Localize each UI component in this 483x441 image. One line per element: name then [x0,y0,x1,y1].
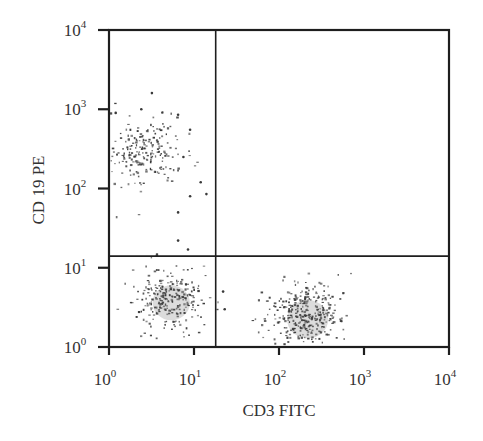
event-dot [162,111,164,113]
event-dot [153,137,155,139]
event-dot [158,293,159,294]
event-dot [187,248,190,251]
event-dot [120,133,122,134]
event-dot [187,294,189,296]
event-dot [157,151,159,153]
event-dot [300,330,302,331]
event-dot [285,300,287,302]
event-dot [173,309,175,311]
event-dot [311,339,313,341]
event-dot [177,168,180,170]
event-dot [130,302,132,303]
event-dot [143,139,145,141]
event-dot [197,290,200,292]
event-dot [310,299,312,301]
event-dot [258,299,260,301]
event-dot [140,184,142,185]
event-dot [185,288,187,290]
event-dot [162,303,164,305]
event-dot [177,281,179,282]
event-dot [305,291,307,293]
event-dot [300,301,301,302]
event-dot [114,103,116,104]
event-dot [316,318,317,320]
event-dot [167,142,169,143]
event-dot [166,133,167,135]
event-dot [169,168,171,169]
event-dot [115,141,117,142]
event-dot [158,173,160,175]
event-dot [185,319,187,321]
event-dot [179,298,182,299]
event-dot [160,155,161,157]
event-dot [139,182,141,184]
event-dot [154,294,156,295]
event-dot [340,320,343,322]
event-dot [150,168,151,170]
event-dot [183,269,185,270]
event-dot [161,296,162,297]
event-dot [165,304,166,306]
event-dot [140,164,142,166]
event-dot [164,174,166,175]
event-dot [157,171,158,173]
event-dot [316,328,317,330]
event-dot [314,286,315,288]
event-dot [291,311,292,313]
event-dot [188,335,190,336]
event-dot [322,295,325,296]
event-dot [176,285,178,286]
event-dot [289,298,291,300]
event-dot [116,216,118,218]
event-dot [131,159,133,161]
event-dot [130,164,132,165]
event-dot [318,311,320,312]
event-dot [125,141,126,143]
event-dot [148,281,150,283]
event-dot [136,139,137,141]
event-dot [181,279,183,281]
event-dot [142,147,144,149]
event-dot [138,214,141,215]
event-dot [147,155,149,156]
event-dot [121,173,123,174]
event-dot [177,154,179,156]
event-dot [152,319,154,320]
event-dot [129,157,131,159]
event-dot [155,284,157,286]
event-dot [191,290,193,292]
event-dot [182,296,184,298]
event-dot [343,338,345,340]
event-dot [150,303,152,305]
event-dot [302,316,304,318]
event-dot [133,156,135,158]
event-dot [114,112,117,115]
event-dot [155,155,156,157]
event-dot [167,282,169,283]
event-dot [163,151,165,153]
x-tick-label: 102 [264,367,287,389]
event-dot [274,318,276,319]
event-dot [304,322,306,323]
event-dot [143,156,144,157]
event-dot [188,133,190,135]
event-dot [167,155,169,157]
event-dot [163,292,165,293]
event-dot [140,191,142,193]
event-dot [295,313,297,314]
event-dot [151,156,153,158]
event-dot [338,274,339,276]
event-dot [146,145,148,147]
event-dot [346,315,348,317]
event-dot [203,324,205,325]
event-dot [283,315,284,316]
event-dot [170,126,172,127]
event-dot [144,290,146,291]
event-dot [289,321,290,323]
event-dot [171,296,174,297]
event-dot [176,265,178,267]
event-dot [279,317,281,319]
event-dot [166,321,167,322]
event-dot [161,135,163,137]
event-dot [186,327,188,329]
